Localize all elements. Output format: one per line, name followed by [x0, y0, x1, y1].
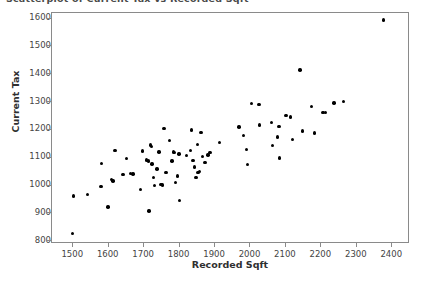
data-point: [310, 105, 313, 108]
x-tick-mark: [214, 243, 215, 247]
data-point: [125, 157, 128, 160]
data-point: [191, 159, 194, 162]
data-point: [198, 170, 201, 173]
x-tick-label: 1500: [52, 249, 92, 259]
data-point: [257, 103, 260, 106]
data-point: [342, 100, 345, 103]
data-point: [190, 128, 193, 131]
data-point: [147, 209, 150, 212]
data-point: [199, 131, 202, 134]
x-tick-mark: [285, 243, 286, 247]
data-point: [170, 159, 173, 162]
x-tick-label: 1600: [88, 249, 128, 259]
chart-title: Scatterplot of Current Tax vs Recorded S…: [6, 0, 406, 5]
data-point: [289, 115, 292, 118]
data-point: [201, 155, 204, 158]
data-point: [174, 181, 177, 184]
data-point: [155, 167, 158, 170]
y-tick-label: 1500: [17, 41, 51, 50]
data-point: [276, 135, 279, 138]
x-tick-mark: [356, 243, 357, 247]
data-point: [278, 156, 281, 159]
x-tick-mark: [108, 243, 109, 247]
data-point: [203, 161, 206, 164]
data-point: [291, 138, 294, 141]
y-tick-label: 1200: [17, 124, 51, 133]
y-tick-label: 1600: [17, 13, 51, 22]
data-point: [150, 145, 153, 148]
data-point: [245, 148, 248, 151]
data-point: [196, 143, 199, 146]
data-point: [258, 123, 261, 126]
data-point: [113, 149, 116, 152]
data-point: [178, 199, 181, 202]
x-tick-label: 1900: [194, 249, 234, 259]
data-point: [193, 165, 196, 168]
data-point: [218, 141, 221, 144]
x-tick-mark: [72, 243, 73, 247]
x-tick-label: 1700: [123, 249, 163, 259]
data-point: [177, 152, 180, 155]
x-tick-label: 2200: [300, 249, 340, 259]
data-point: [298, 68, 301, 71]
x-tick-mark: [143, 243, 144, 247]
data-point: [242, 134, 245, 137]
y-tick-label: 1300: [17, 97, 51, 106]
data-point: [139, 188, 142, 191]
x-tick-label: 2000: [229, 249, 269, 259]
y-axis-ticks: 8009001000110012001300140015001600: [11, 12, 51, 243]
data-point: [189, 149, 192, 152]
data-point: [324, 111, 327, 114]
data-point: [111, 179, 114, 182]
data-point: [237, 125, 240, 128]
data-point: [246, 163, 249, 166]
x-tick-label: 2400: [371, 249, 411, 259]
data-point: [162, 127, 165, 130]
y-tick-label: 1000: [17, 180, 51, 189]
data-point: [194, 176, 197, 179]
data-point: [152, 176, 155, 179]
data-point: [173, 151, 176, 154]
data-point: [168, 139, 171, 142]
data-point: [161, 183, 164, 186]
data-point: [277, 125, 280, 128]
y-tick-label: 800: [17, 236, 51, 245]
data-points-layer: [52, 13, 408, 242]
data-point: [100, 162, 103, 165]
data-point: [284, 114, 287, 117]
data-point: [131, 172, 134, 175]
data-point: [157, 150, 160, 153]
data-point: [185, 154, 188, 157]
x-axis-title: Recorded Sqft: [51, 259, 409, 270]
data-point: [71, 232, 74, 235]
plot-area: [51, 12, 409, 243]
y-tick-label: 900: [17, 208, 51, 217]
data-point: [250, 102, 253, 105]
data-point: [141, 149, 144, 152]
x-tick-mark: [249, 243, 250, 247]
data-point: [121, 173, 124, 176]
data-point: [150, 162, 153, 165]
data-point: [176, 174, 179, 177]
scatter-plot-figure: Scatterplot of Current Tax vs Recorded S…: [0, 0, 422, 285]
data-point: [72, 194, 75, 197]
data-point: [271, 144, 274, 147]
x-tick-label: 2300: [336, 249, 376, 259]
x-tick-mark: [179, 243, 180, 247]
data-point: [86, 193, 89, 196]
data-point: [208, 151, 211, 154]
data-point: [153, 184, 156, 187]
y-tick-label: 1400: [17, 69, 51, 78]
data-point: [106, 205, 109, 208]
data-point: [313, 131, 316, 134]
data-point: [301, 129, 304, 132]
x-tick-mark: [320, 243, 321, 247]
data-point: [270, 121, 273, 124]
x-tick-label: 1800: [159, 249, 199, 259]
x-tick-mark: [391, 243, 392, 247]
data-point: [332, 101, 335, 104]
y-tick-label: 1100: [17, 152, 51, 161]
data-point: [99, 185, 102, 188]
data-point: [382, 18, 385, 21]
data-point: [164, 171, 167, 174]
